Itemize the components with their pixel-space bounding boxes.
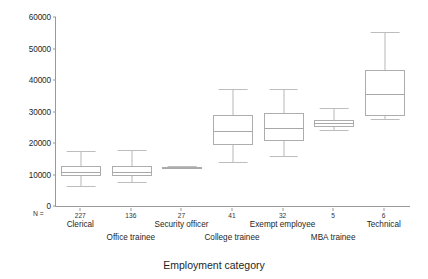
sample-size-value: 41 [228, 212, 235, 219]
lower-whisker-cap [67, 186, 96, 187]
box-plot-group [359, 17, 410, 206]
category-label: Exempt employee [250, 220, 316, 229]
median-line [264, 128, 304, 129]
x-axis-tick-mark [333, 208, 334, 211]
sample-size-value: 227 [75, 212, 86, 219]
x-axis-title: Employment category [0, 259, 428, 271]
y-axis-tick-label: 30000 [29, 107, 56, 116]
x-axis-tick-mark [80, 208, 81, 211]
x-axis-tick-mark [282, 208, 283, 211]
y-axis-tick-label: 10000 [29, 170, 56, 179]
lower-whisker-cap [117, 182, 146, 183]
upper-whisker-cap [320, 108, 349, 109]
sample-size-value: 6 [382, 212, 386, 219]
plot-frame: 0100002000030000400005000060000 [55, 17, 410, 207]
upper-whisker-cap [370, 32, 399, 33]
sample-size-row: 22713627413256 [55, 208, 410, 220]
n-equals-label: N = [33, 210, 44, 217]
category-label-row: ClericalOffice traineeSecurity officerCo… [55, 220, 410, 250]
upper-whisker [283, 89, 284, 113]
sample-size-value: 5 [331, 212, 335, 219]
upper-whisker [334, 108, 335, 120]
median-line [365, 94, 405, 95]
y-axis-tick-label: 20000 [29, 139, 56, 148]
category-label: MBA trainee [311, 233, 356, 242]
lower-whisker-cap [269, 156, 298, 157]
upper-whisker-cap [67, 151, 96, 152]
y-axis-tick-label: 40000 [29, 76, 56, 85]
box-plot-group [107, 17, 158, 206]
median-line [162, 168, 202, 169]
median-line [61, 172, 101, 173]
x-axis-tick-mark [383, 208, 384, 211]
lower-whisker [232, 145, 233, 162]
upper-whisker [131, 150, 132, 166]
y-axis-tick-label: 60000 [29, 13, 56, 22]
category-label: Office trainee [107, 233, 156, 242]
category-label: Security officer [154, 220, 208, 229]
y-axis-tick-label: 50000 [29, 44, 56, 53]
x-axis-tick-mark [232, 208, 233, 211]
box-plot-group [56, 17, 107, 206]
box-plot-group [208, 17, 259, 206]
median-line [112, 172, 152, 173]
box-plot-group [157, 17, 208, 206]
lower-whisker-cap [370, 119, 399, 120]
category-label: Clerical [67, 220, 94, 229]
boxplot-figure: 0100002000030000400005000060000 N = 2271… [0, 0, 428, 279]
sample-size-value: 27 [178, 212, 185, 219]
upper-whisker-cap [269, 89, 298, 90]
box-plot-group [258, 17, 309, 206]
box-plot-group [309, 17, 360, 206]
category-label: Technical [367, 220, 401, 229]
lower-whisker-cap [219, 162, 248, 163]
plot-area: 0100002000030000400005000060000 [56, 17, 410, 206]
median-line [314, 123, 354, 124]
lower-whisker [81, 176, 82, 186]
sample-size-value: 136 [125, 212, 136, 219]
sample-size-value: 32 [279, 212, 286, 219]
x-axis-tick-mark [181, 208, 182, 211]
lower-whisker-cap [320, 130, 349, 131]
x-axis-tick-mark [130, 208, 131, 211]
upper-whisker-cap [219, 89, 248, 90]
upper-whisker [81, 151, 82, 166]
lower-whisker [283, 141, 284, 156]
box-iqr [61, 166, 101, 176]
upper-whisker [384, 32, 385, 70]
upper-whisker-cap [117, 150, 146, 151]
box-iqr [112, 166, 152, 176]
median-line [213, 131, 253, 132]
category-label: College trainee [204, 233, 259, 242]
upper-whisker [232, 89, 233, 116]
